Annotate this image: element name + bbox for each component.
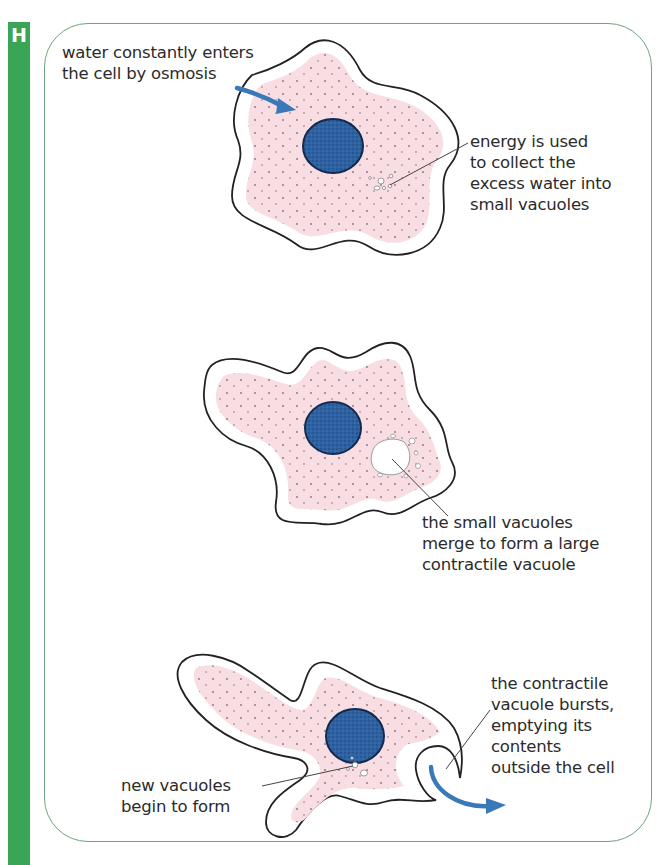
label-line: begin to form xyxy=(121,796,231,817)
nucleus-1 xyxy=(303,119,363,173)
label-line: excess water into xyxy=(470,173,611,194)
label-line: contractile vacuole xyxy=(422,554,599,575)
label-line: new vacuoles xyxy=(121,775,231,796)
label-line: the cell by osmosis xyxy=(62,63,254,84)
label-energy-used: energy is used to collect the excess wat… xyxy=(470,131,611,215)
label-line: small vacuoles xyxy=(470,194,611,215)
contractile-vacuole-2 xyxy=(371,439,410,475)
label-new-vacuoles: new vacuoles begin to form xyxy=(121,775,231,817)
nucleus-3 xyxy=(326,709,384,763)
label-line: energy is used xyxy=(470,131,611,152)
label-line: contents xyxy=(491,736,615,757)
cell-stage-2 xyxy=(204,343,455,525)
label-line: outside the cell xyxy=(491,757,615,778)
cell-stage-1 xyxy=(232,40,468,254)
label-line: the small vacuoles xyxy=(422,512,599,533)
label-line: merge to form a large xyxy=(422,533,599,554)
label-line: vacuole bursts, xyxy=(491,694,615,715)
label-osmosis: water constantly enters the cell by osmo… xyxy=(62,42,254,84)
nucleus-2 xyxy=(305,402,361,454)
label-vacuoles-merge: the small vacuoles merge to form a large… xyxy=(422,512,599,575)
label-line: to collect the xyxy=(470,152,611,173)
label-line: the contractile xyxy=(491,673,615,694)
label-line: emptying its xyxy=(491,715,615,736)
label-line: water constantly enters xyxy=(62,42,254,63)
label-vacuole-bursts: the contractile vacuole bursts, emptying… xyxy=(491,673,615,778)
